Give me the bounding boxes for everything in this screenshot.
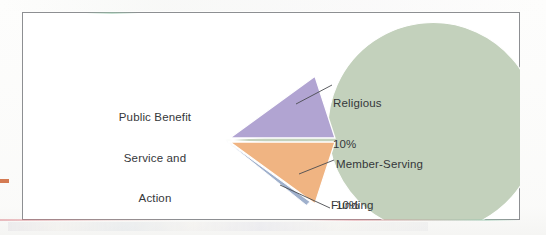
pie-slice-religious[interactable]	[230, 76, 335, 138]
slice-label-public-benefit-line3: Action	[106, 192, 204, 206]
pie-slice-member-serving[interactable]	[230, 142, 335, 204]
slice-label-public-benefit: Public Benefit Service and Action 79%	[106, 84, 204, 235]
slice-label-religious-line1: Religious	[333, 97, 453, 111]
figure-page: Public Benefit Service and Action 79% Re…	[0, 0, 546, 235]
slice-label-funding-intermediaries-line1: Funding	[331, 199, 471, 213]
slice-label-funding-intermediaries: Funding Intermediaries 1%	[331, 172, 471, 235]
slice-label-member-serving-line1: Member-Serving	[336, 158, 476, 172]
slice-label-public-benefit-line2: Service and	[106, 152, 204, 166]
scan-noise-top	[0, 0, 546, 11]
slice-value-public-benefit: 79%	[106, 233, 204, 236]
edge-registration-mark	[0, 179, 9, 183]
slice-label-public-benefit-line1: Public Benefit	[106, 111, 204, 125]
